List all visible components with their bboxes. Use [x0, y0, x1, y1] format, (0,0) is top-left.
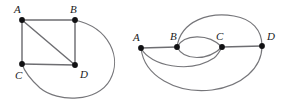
left-graph-edge-A-D-diagonal: [22, 20, 75, 65]
right-graph-vertex-A: [138, 45, 144, 51]
right-graph-edge-A-C-arc-below: [141, 47, 222, 67]
right-graph-vertex-C: [219, 44, 225, 50]
right-graph-edge-C-D: [222, 46, 262, 47]
right-graph-vertex-B: [174, 44, 180, 50]
left-graph-vertex-C: [19, 61, 25, 67]
figure-root: A B C D A B: [0, 0, 287, 108]
left-graph-label-D: D: [79, 68, 88, 80]
left-graph-vertex-D: [72, 62, 78, 68]
left-graph-label-B: B: [70, 3, 77, 15]
right-graph-edge-A-D-arc-below: [141, 46, 262, 91]
right-graph-vertex-D: [259, 43, 265, 49]
left-graph: A B C D: [13, 3, 115, 99]
left-graph-label-C: C: [15, 69, 23, 81]
left-graph-edge-C-D: [22, 64, 75, 65]
right-graph-edge-A-B: [141, 47, 177, 48]
left-graph-vertex-A: [19, 17, 25, 23]
graph-figure-canvas: A B C D A B: [0, 0, 287, 108]
right-graph-edge-B-C-arc-below: [177, 47, 222, 58]
right-graph-label-B: B: [170, 30, 177, 42]
left-graph-vertex-B: [72, 17, 78, 23]
right-graph: A B C D: [132, 15, 275, 91]
right-graph-label-C: C: [216, 30, 224, 42]
right-graph-label-A: A: [132, 31, 140, 43]
right-graph-label-D: D: [266, 30, 275, 42]
left-graph-label-A: A: [13, 3, 21, 15]
